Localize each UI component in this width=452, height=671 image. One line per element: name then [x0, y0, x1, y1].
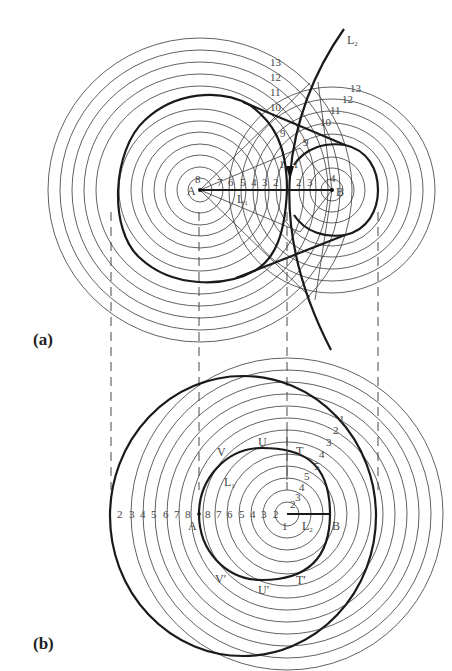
row-num: 3: [261, 508, 267, 520]
label-l2-plan: L2: [302, 519, 313, 534]
arc-num: 13: [270, 56, 282, 68]
axis-num: 2: [296, 176, 302, 188]
label-u-prime: U′: [258, 583, 270, 597]
axis-num: 7: [217, 176, 223, 188]
label-l2: L2: [347, 33, 358, 48]
label-t-prime: T′: [296, 573, 306, 587]
point-a-dot: [198, 188, 202, 192]
arc-num: 3: [295, 491, 301, 503]
axis-num: 2: [273, 176, 279, 188]
arc-num: 9: [303, 136, 309, 148]
label-l1: L1: [237, 192, 248, 207]
row-num: 5: [151, 508, 157, 520]
panel-b-label: (b): [33, 634, 54, 653]
row-num: 7: [174, 508, 180, 520]
row-num: 7: [216, 508, 222, 520]
label-l1-plan: L1: [224, 475, 235, 490]
panel-a-label: (a): [33, 330, 53, 349]
panel-a: A B L1 L2 8 7 6 5 4 3 2 2 3 4 1 1 13 12 …: [33, 29, 435, 350]
row-num: 4: [140, 508, 146, 520]
diagram-canvas: A B L1 L2 8 7 6 5 4 3 2 2 3 4 1 1 13 12 …: [0, 0, 452, 671]
point-a-dot-plan: [197, 512, 201, 516]
label-b: B: [336, 185, 344, 199]
arc-num: 1: [339, 413, 345, 425]
point-b-dot: [330, 188, 334, 192]
row-num: 3: [129, 508, 135, 520]
row-num: 8: [185, 508, 191, 520]
axis-num: 3: [307, 176, 313, 188]
arc-num: 5: [314, 460, 320, 472]
row-num: 2: [273, 508, 279, 520]
row-num: 6: [163, 508, 169, 520]
arc-num: 2: [333, 424, 339, 436]
row-num: 5: [239, 508, 245, 520]
row-num: 8: [205, 508, 211, 520]
arc-num: 4: [319, 448, 325, 460]
b-left-row-numbers: 2 3 4 5 6 7 8: [117, 508, 191, 520]
label-b-plan: B: [332, 519, 340, 533]
row-num: 2: [117, 508, 123, 520]
arc-num: 11: [330, 104, 341, 116]
arc-num: 12: [270, 71, 281, 83]
arc-num: 12: [342, 93, 353, 105]
b-upper-right-numbers: 1 2 3 4 5 5 4 3: [295, 413, 345, 503]
center-num: 1: [282, 520, 288, 532]
arc-num: 3: [326, 436, 332, 448]
arc-num: 5: [304, 470, 310, 482]
axis-num: 5: [240, 176, 246, 188]
axis-num: 4: [330, 172, 336, 184]
axis-num: 4: [251, 176, 257, 188]
label-a: A: [187, 184, 196, 198]
mid-num: 1: [279, 158, 285, 170]
axis-num: 3: [262, 176, 268, 188]
label-v-prime: V′: [215, 572, 227, 586]
panel-b: A B L1 L2 V U T V′ U′ T′ 2 3 4 5 6 7 8 8…: [33, 358, 443, 670]
row-num: 4: [250, 508, 256, 520]
mid-num: 1: [293, 158, 299, 170]
label-t: T: [296, 444, 304, 458]
row-num: 6: [227, 508, 233, 520]
axis-num: 8: [195, 173, 201, 185]
arc-num: 10: [270, 101, 282, 113]
arc-num: 10: [320, 116, 332, 128]
arc-num: 11: [270, 86, 281, 98]
axis-num: 6: [228, 176, 234, 188]
label-u: U: [258, 435, 267, 449]
label-a-plan: A: [188, 519, 197, 533]
label-v: V: [217, 445, 226, 459]
arc-num: 9: [280, 127, 286, 139]
